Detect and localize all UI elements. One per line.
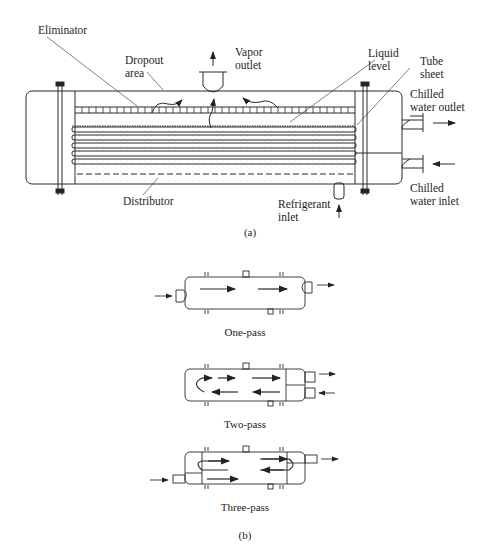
label-chilled-water-inlet: Chilled water inlet [410, 182, 459, 207]
eliminator-ticks [82, 107, 348, 113]
label-vapor-outlet: Vapor outlet [235, 46, 262, 71]
label-two-pass: Two-pass [205, 418, 285, 430]
three-pass-exchanger [150, 446, 338, 489]
caption-a: (a) [235, 226, 265, 238]
caption-b: (b) [230, 529, 260, 541]
two-pass-exchanger [185, 363, 335, 406]
label-distributor: Distributor [123, 195, 173, 208]
evaporator-diagram [0, 0, 485, 550]
label-three-pass: Three-pass [205, 501, 285, 513]
label-liquid-level: Liquid level [368, 47, 399, 72]
label-eliminator: Eliminator [38, 24, 87, 37]
label-dropout-area: Dropout area [125, 54, 163, 79]
label-chilled-water-outlet: Chilled water outlet [410, 88, 465, 113]
label-tube-sheet: Tube sheet [420, 55, 444, 80]
label-one-pass: One-pass [205, 326, 285, 338]
label-refrigerant-inlet: Refrigerant inlet [278, 198, 330, 223]
one-pass-exchanger [155, 271, 334, 314]
